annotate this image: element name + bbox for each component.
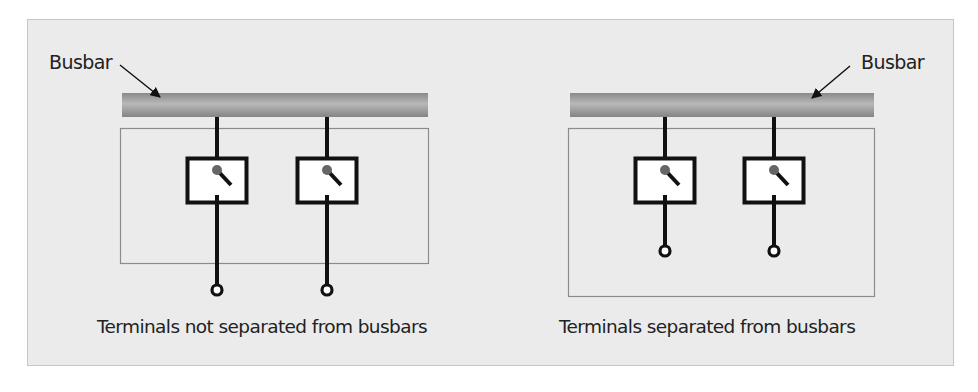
enclosure-right	[569, 129, 875, 297]
terminal-right-2	[769, 246, 779, 256]
busbar-right	[570, 93, 874, 117]
feeder-left-2	[298, 117, 357, 295]
switch-pivot	[660, 165, 670, 175]
feeder-left-1	[188, 117, 247, 295]
terminal-right-1	[660, 246, 670, 256]
busbar-label-right: Busbar	[861, 51, 924, 73]
switch-pivot	[212, 165, 222, 175]
panel-right	[569, 66, 875, 297]
busbar-arrow-left	[120, 65, 160, 97]
enclosure-left	[121, 129, 429, 264]
terminal-left-2	[322, 285, 332, 295]
feeder-right-1	[636, 117, 695, 256]
switch-pivot	[769, 165, 779, 175]
busbar-label-left: Busbar	[49, 51, 112, 73]
terminal-left-1	[212, 285, 222, 295]
busbar-left	[122, 93, 428, 117]
switch-pivot	[322, 165, 332, 175]
panel-left	[120, 65, 429, 295]
feeder-right-2	[745, 117, 804, 256]
caption-left: Terminals not separated from busbars	[97, 316, 427, 337]
caption-right: Terminals separated from busbars	[559, 316, 855, 337]
